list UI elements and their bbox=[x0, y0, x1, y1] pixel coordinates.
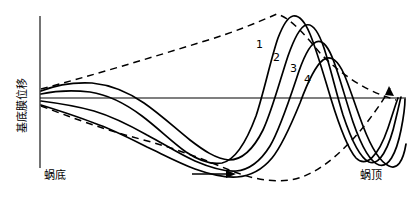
y-axis-label: 基底膜位移 bbox=[17, 68, 28, 144]
x-axis-label-base: 蜗底 bbox=[44, 170, 66, 181]
lower-envelope-curve bbox=[41, 88, 390, 181]
curve-label-1: 1 bbox=[256, 39, 263, 50]
waveform-curve-1 bbox=[41, 16, 398, 164]
curve-label-2: 2 bbox=[273, 52, 280, 63]
curve-label-3: 3 bbox=[290, 63, 297, 74]
x-axis-label-apex: 蜗顶 bbox=[360, 170, 382, 181]
waveform-curve-3 bbox=[41, 41, 405, 171]
cochlear-travelling-wave-figure: 基底膜位移 蜗底 蜗顶 1 2 3 4 bbox=[0, 0, 417, 205]
lower-envelope-arrowhead bbox=[385, 86, 394, 96]
curve-label-4: 4 bbox=[304, 74, 311, 85]
